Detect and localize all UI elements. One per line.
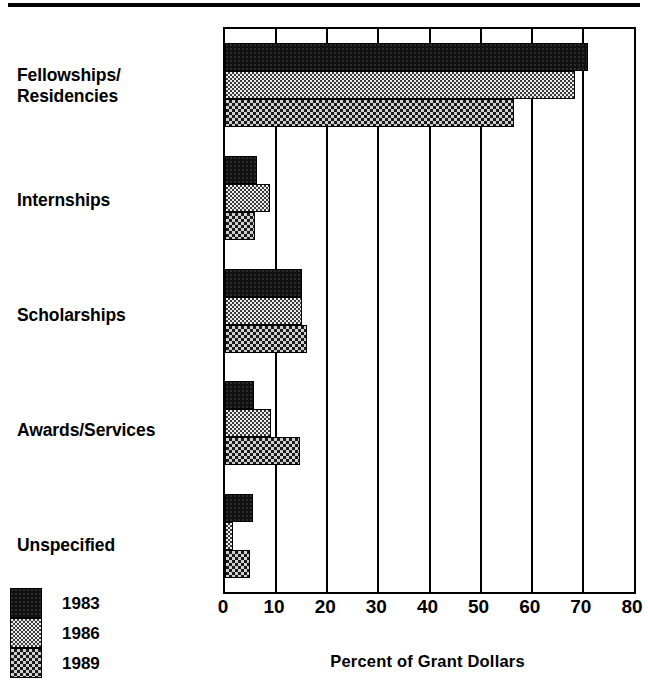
category-label-internships: Internships <box>17 190 110 211</box>
category-label-awards-services: Awards/Services <box>17 420 155 441</box>
bar-group-0 <box>225 43 634 127</box>
top-divider-rule <box>8 3 640 7</box>
legend-label-1983: 1983 <box>62 594 100 614</box>
legend-swatch-1986 <box>10 618 42 648</box>
category-label-unspecified: Unspecified <box>17 535 115 556</box>
bar-1983-0 <box>225 43 588 71</box>
x-axis-tick-labels: 01020304050607080 <box>223 596 632 622</box>
bar-1989-3 <box>225 437 300 465</box>
legend-label-1989: 1989 <box>62 654 100 674</box>
bar-1983-4 <box>225 494 253 522</box>
x-tick-label-40: 40 <box>417 596 438 618</box>
bar-1986-1 <box>225 184 270 212</box>
x-tick-label-70: 70 <box>570 596 591 618</box>
bar-1983-2 <box>225 269 302 297</box>
bar-1989-2 <box>225 325 307 353</box>
bar-1989-1 <box>225 212 255 240</box>
legend-swatch-1989 <box>10 648 42 678</box>
category-label-scholarships: Scholarships <box>17 305 126 326</box>
bar-1986-3 <box>225 409 271 437</box>
x-tick-label-0: 0 <box>218 596 229 618</box>
x-tick-label-50: 50 <box>468 596 489 618</box>
x-tick-label-10: 10 <box>264 596 285 618</box>
plot-area <box>223 27 636 594</box>
x-axis-title: Percent of Grant Dollars <box>223 652 632 671</box>
bar-1989-4 <box>225 550 250 578</box>
bar-1986-2 <box>225 297 302 325</box>
x-tick-label-20: 20 <box>315 596 336 618</box>
x-tick-label-80: 80 <box>621 596 642 618</box>
x-tick-label-60: 60 <box>519 596 540 618</box>
bar-series-container <box>225 29 634 592</box>
bar-group-4 <box>225 494 634 578</box>
x-tick-label-30: 30 <box>366 596 387 618</box>
bar-group-2 <box>225 269 634 353</box>
bar-group-1 <box>225 156 634 240</box>
bar-1983-1 <box>225 156 257 184</box>
legend-swatch-1983 <box>10 588 42 618</box>
bar-1983-3 <box>225 381 254 409</box>
bar-1986-4 <box>225 522 233 550</box>
bar-1989-0 <box>225 99 514 127</box>
category-label-fellowships-residencies: Fellowships/ Residencies <box>17 65 121 106</box>
bar-1986-0 <box>225 71 575 99</box>
bar-group-3 <box>225 381 634 465</box>
legend-label-1986: 1986 <box>62 624 100 644</box>
